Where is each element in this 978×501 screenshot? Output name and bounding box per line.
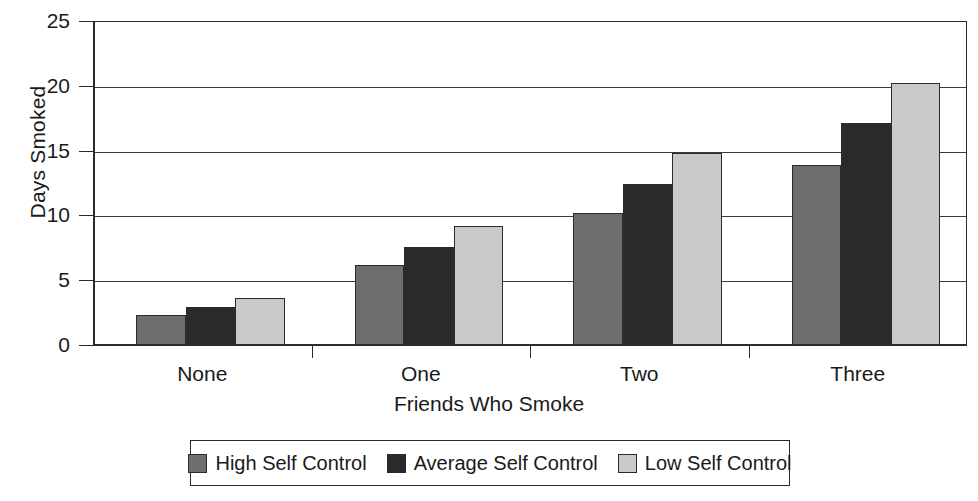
- gridline: [95, 87, 966, 88]
- legend-label: Low Self Control: [645, 452, 792, 475]
- x-tick-label: One: [321, 362, 521, 386]
- y-tick-label: 15: [28, 140, 70, 161]
- y-tick-label: 10: [28, 204, 70, 225]
- y-tick-mark: [79, 151, 94, 152]
- y-tick-mark: [79, 280, 94, 281]
- legend: High Self Control Average Self Control L…: [190, 440, 790, 486]
- legend-label: Average Self Control: [414, 452, 598, 475]
- y-tick-mark: [79, 21, 94, 22]
- bar: [573, 213, 623, 345]
- legend-item: High Self Control: [188, 452, 366, 475]
- bar: [235, 298, 285, 345]
- y-tick-label: 20: [28, 75, 70, 96]
- legend-swatch-average-self-control: [387, 454, 406, 473]
- x-tick-mark: [749, 345, 750, 358]
- x-tick-label: None: [102, 362, 302, 386]
- legend-label: High Self Control: [215, 452, 366, 475]
- bar: [792, 165, 842, 345]
- plot-area: [93, 21, 967, 345]
- x-axis-title: Friends Who Smoke: [0, 392, 978, 416]
- bar: [404, 247, 454, 345]
- x-tick-label: Three: [758, 362, 958, 386]
- gridline: [95, 152, 966, 153]
- bar: [454, 226, 504, 345]
- legend-swatch-high-self-control: [188, 454, 207, 473]
- bar: [136, 315, 186, 345]
- legend-swatch-low-self-control: [618, 454, 637, 473]
- y-tick-mark: [79, 215, 94, 216]
- x-tick-mark: [530, 345, 531, 358]
- y-tick-label: 5: [28, 269, 70, 290]
- bar: [672, 153, 722, 345]
- x-tick-label: Two: [539, 362, 739, 386]
- bar-chart: Days Smoked 0510152025 NoneOneTwoThree F…: [0, 0, 978, 501]
- bar: [186, 307, 236, 345]
- y-tick-mark: [79, 345, 94, 346]
- y-tick-mark: [79, 86, 94, 87]
- bar: [355, 265, 405, 345]
- legend-item: Low Self Control: [618, 452, 792, 475]
- bar: [841, 123, 891, 345]
- bar: [623, 184, 673, 345]
- bar: [891, 83, 941, 345]
- legend-item: Average Self Control: [387, 452, 598, 475]
- y-tick-label: 0: [28, 334, 70, 355]
- y-tick-label: 25: [28, 10, 70, 31]
- x-tick-mark: [312, 345, 313, 358]
